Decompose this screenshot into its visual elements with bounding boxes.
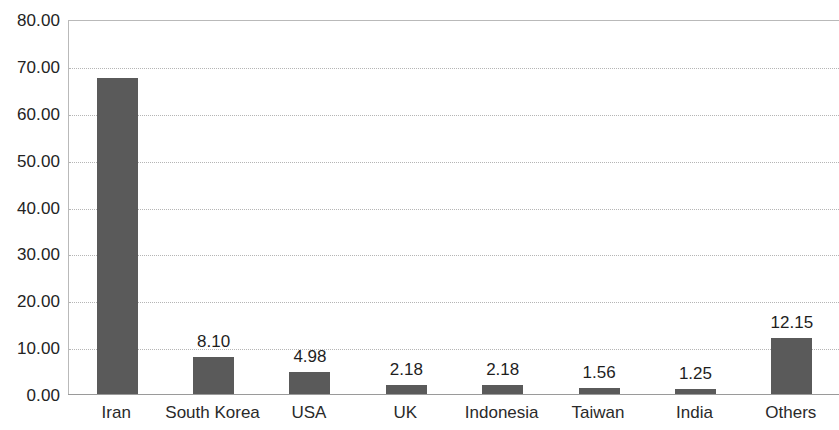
x-axis-tick-label: USA bbox=[291, 404, 326, 421]
bar-slot: 1.56 bbox=[579, 21, 620, 395]
bar-value-label: 4.98 bbox=[293, 348, 326, 365]
bar-value-label: 8.10 bbox=[197, 333, 230, 350]
y-axis-tick-label: 60.00 bbox=[2, 105, 60, 122]
bar-value-label: 1.25 bbox=[679, 365, 712, 382]
y-axis-tick-label: 70.00 bbox=[2, 58, 60, 75]
plot-area: 8.104.982.182.181.561.2512.15 bbox=[68, 20, 839, 395]
bar[interactable] bbox=[97, 78, 138, 395]
y-axis-tick-label: 80.00 bbox=[2, 12, 60, 29]
y-axis-tick-label: 40.00 bbox=[2, 199, 60, 216]
bar[interactable] bbox=[771, 338, 812, 395]
x-axis-tick-label: South Korea bbox=[165, 404, 260, 421]
bar-slot: 2.18 bbox=[482, 21, 523, 395]
x-axis: IranSouth KoreaUSAUKIndonesiaTaiwanIndia… bbox=[68, 400, 839, 430]
bar[interactable] bbox=[193, 357, 234, 395]
x-axis-baseline bbox=[68, 394, 839, 395]
y-axis-tick-label: 30.00 bbox=[2, 246, 60, 263]
bar[interactable] bbox=[289, 372, 330, 395]
bars-layer: 8.104.982.182.181.561.2512.15 bbox=[69, 21, 839, 395]
x-axis-tick-label: UK bbox=[394, 404, 418, 421]
bar-slot: 8.10 bbox=[193, 21, 234, 395]
bar-value-label: 2.18 bbox=[390, 361, 423, 378]
bar-slot: 4.98 bbox=[289, 21, 330, 395]
x-axis-tick-label: India bbox=[676, 404, 713, 421]
bar-slot bbox=[97, 21, 138, 395]
x-axis-tick-label: Taiwan bbox=[572, 404, 625, 421]
bar-value-label: 2.18 bbox=[486, 361, 519, 378]
x-axis-tick-label: Iran bbox=[102, 404, 131, 421]
bar-slot: 12.15 bbox=[771, 21, 812, 395]
y-axis-tick-label: 10.00 bbox=[2, 340, 60, 357]
x-axis-tick-label: Indonesia bbox=[465, 404, 539, 421]
bar-chart: 80.0070.0060.0050.0040.0030.0020.0010.00… bbox=[0, 0, 839, 430]
x-axis-tick-label: Others bbox=[765, 404, 816, 421]
y-axis: 80.0070.0060.0050.0040.0030.0020.0010.00… bbox=[0, 0, 60, 430]
bar-slot: 1.25 bbox=[675, 21, 716, 395]
y-axis-tick-label: 0.00 bbox=[2, 387, 60, 404]
y-axis-tick-label: 20.00 bbox=[2, 293, 60, 310]
bar-value-label: 1.56 bbox=[583, 364, 616, 381]
bar-value-label: 12.15 bbox=[771, 314, 814, 331]
y-axis-tick-label: 50.00 bbox=[2, 152, 60, 169]
bar-slot: 2.18 bbox=[386, 21, 427, 395]
